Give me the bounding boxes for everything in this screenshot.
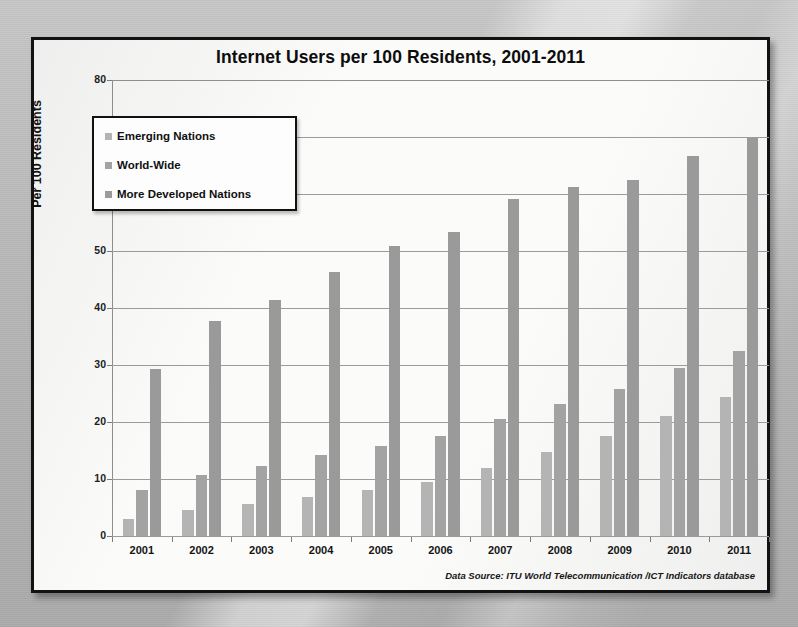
bar-2010-series-1 [674,368,686,536]
bar-group-2010 [660,80,699,536]
y-tick-label-20: 20 [76,415,106,427]
bar-group-2004 [302,80,341,536]
y-tick-label-0: 0 [76,529,106,541]
bar-2006-series-2 [448,232,460,536]
bar-2008-series-2 [568,187,580,536]
bar-group-2008 [541,80,580,536]
x-tick-mark-2008 [530,537,531,542]
y-tick-mark-50 [107,251,112,252]
y-tick-label-80: 80 [76,73,106,85]
bar-2009-series-1 [614,389,626,536]
bar-2005-series-0 [362,490,374,536]
gridline-0 [112,536,769,537]
legend-label: More Developed Nations [117,188,251,200]
y-tick-label-50: 50 [76,244,106,256]
bar-2008-series-0 [541,452,553,536]
x-tick-mark-2007 [470,537,471,542]
x-tick-label-2001: 2001 [112,544,172,556]
bar-2010-series-2 [687,156,699,536]
chart-panel: Internet Users per 100 Residents, 2001-2… [31,37,770,593]
y-tick-label-40: 40 [76,301,106,313]
x-tick-label-2002: 2002 [172,544,232,556]
legend-item-0: Emerging Nations [105,130,215,142]
x-tick-label-2006: 2006 [411,544,471,556]
x-tick-mark-2004 [291,537,292,542]
y-tick-label-30: 30 [76,358,106,370]
bar-2002-series-2 [209,321,221,536]
bar-2007-series-2 [508,199,520,536]
bar-2003-series-2 [269,300,281,536]
bar-2004-series-2 [329,272,341,536]
bar-2001-series-2 [150,369,162,536]
x-tick-label-2007: 2007 [470,544,530,556]
legend-label: World-Wide [117,159,181,171]
y-tick-mark-20 [107,422,112,423]
x-tick-label-2005: 2005 [351,544,411,556]
x-tick-mark-2006 [411,537,412,542]
bar-2008-series-1 [554,404,566,536]
legend-item-1: World-Wide [105,159,181,171]
bar-2001-series-1 [136,490,148,536]
bar-2003-series-1 [256,466,268,536]
bar-2007-series-1 [494,419,506,536]
bar-group-2006 [421,80,460,536]
bar-2005-series-2 [389,246,401,536]
x-tick-mark-2010 [650,537,651,542]
x-tick-mark-2011 [709,537,710,542]
legend-swatch-icon [105,133,112,140]
data-source-note: Data Source: ITU World Telecommunication… [445,570,755,581]
x-tick-label-2008: 2008 [530,544,590,556]
legend-label: Emerging Nations [117,130,215,142]
chart-title: Internet Users per 100 Residents, 2001-2… [34,47,767,68]
bar-2006-series-0 [421,482,433,536]
bar-2004-series-1 [315,455,327,536]
bar-group-2007 [481,80,520,536]
y-axis-title: Per 100 Residents [30,54,44,254]
bar-group-2009 [600,80,639,536]
legend-swatch-icon [105,162,112,169]
bar-2007-series-0 [481,468,493,536]
y-tick-mark-10 [107,479,112,480]
x-tick-mark-2003 [231,537,232,542]
y-tick-label-10: 10 [76,472,106,484]
legend-swatch-icon [105,191,112,198]
chart-legend: Emerging NationsWorld-WideMore Developed… [92,116,297,211]
bar-group-2011 [720,80,759,536]
y-tick-mark-30 [107,365,112,366]
bar-2002-series-0 [182,510,194,536]
bar-2011-series-1 [733,351,745,536]
x-tick-label-2009: 2009 [590,544,650,556]
x-tick-label-2010: 2010 [650,544,710,556]
bar-2006-series-1 [435,436,447,536]
bar-2011-series-0 [720,397,732,536]
y-tick-mark-80 [107,80,112,81]
bar-2001-series-0 [123,519,135,536]
bar-2004-series-0 [302,497,314,536]
x-tick-mark-2005 [351,537,352,542]
x-tick-mark-end [769,537,770,542]
x-tick-label-2011: 2011 [709,544,769,556]
bar-group-2005 [362,80,401,536]
x-tick-label-2003: 2003 [231,544,291,556]
bar-2005-series-1 [375,446,387,536]
x-tick-mark-2001 [112,537,113,542]
x-tick-mark-2009 [590,537,591,542]
bar-2009-series-2 [627,180,639,536]
bar-2010-series-0 [660,416,672,536]
legend-item-2: More Developed Nations [105,188,251,200]
x-tick-label-2004: 2004 [291,544,351,556]
bar-2011-series-2 [747,137,759,536]
x-tick-mark-2002 [172,537,173,542]
bar-2002-series-1 [196,475,208,536]
y-tick-mark-40 [107,308,112,309]
bar-2009-series-0 [600,436,612,536]
bar-2003-series-0 [242,504,254,536]
